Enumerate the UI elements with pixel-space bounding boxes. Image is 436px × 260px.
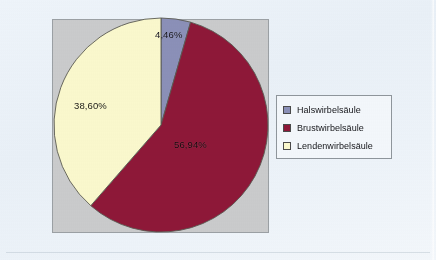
legend-item-label: Halswirbelsäule (297, 106, 361, 115)
legend-swatch-icon (283, 142, 291, 150)
legend-item-label: Brustwirbelsäule (297, 124, 364, 133)
legend: Halswirbelsäule Brustwirbelsäule Lendenw… (276, 95, 392, 159)
legend-swatch-icon (283, 106, 291, 114)
scan-edge-line (6, 252, 430, 253)
legend-item-brustwirbelsaeule[interactable]: Brustwirbelsäule (283, 119, 391, 137)
pie-chart (53, 17, 269, 233)
legend-item-halswirbelsaeule[interactable]: Halswirbelsäule (283, 101, 391, 119)
slice-label-brustwirbelsaeule: 56,94% (174, 139, 207, 150)
legend-item-lendenwirbelsaeule[interactable]: Lendenwirbelsäule (283, 137, 391, 155)
slice-label-lendenwirbelsaeule: 38,60% (74, 100, 107, 111)
pie-svg (53, 17, 269, 233)
slice-label-halswirbelsaeule: 4,46% (155, 29, 182, 40)
chart-page: 4,46% 56,94% 38,60% Halswirbelsäule Brus… (0, 0, 436, 260)
legend-swatch-icon (283, 124, 291, 132)
scan-edge-highlight (431, 0, 434, 260)
legend-item-label: Lendenwirbelsäule (297, 142, 373, 151)
